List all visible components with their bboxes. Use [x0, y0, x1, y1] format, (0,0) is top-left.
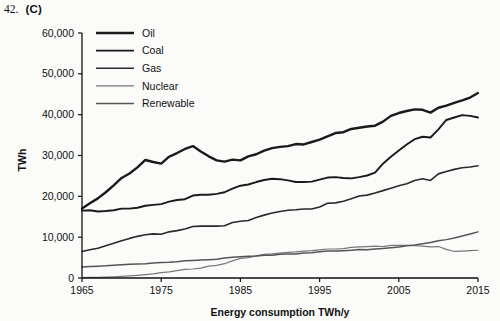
x-tick-label: 2015 [466, 284, 490, 296]
series-line-nuclear [82, 245, 478, 277]
legend-label-nuclear: Nuclear [142, 80, 179, 92]
figure-root: 42. (C) 010,00020,00030,00040,00050,0006… [0, 0, 500, 321]
legend-label-oil: Oil [142, 27, 155, 39]
y-tick-label: 30,000 [42, 149, 74, 161]
y-axis-title: TWh [16, 149, 28, 172]
x-tick-label: 2005 [387, 284, 411, 296]
y-tick-label: 10,000 [42, 231, 74, 243]
x-tick-label: 1975 [150, 284, 174, 296]
x-tick-label: 1965 [70, 284, 94, 296]
series-line-renewable [82, 232, 478, 267]
y-tick-label: 50,000 [42, 67, 74, 79]
y-tick-label: 40,000 [42, 108, 74, 120]
x-axis-title: Energy consumption TWh/y [211, 306, 350, 318]
chart-legend: OilCoalGasNuclearRenewable [96, 27, 195, 109]
y-tick-label: 0 [68, 272, 74, 284]
legend-label-renewable: Renewable [142, 97, 195, 109]
legend-label-coal: Coal [142, 44, 164, 56]
y-tick-label: 20,000 [42, 190, 74, 202]
y-tick-label: 60,000 [42, 27, 74, 39]
legend-label-gas: Gas [142, 62, 161, 74]
x-tick-label: 1985 [229, 284, 253, 296]
line-chart: 010,00020,00030,00040,00050,00060,000196… [0, 0, 500, 321]
series-line-oil [82, 93, 478, 209]
x-tick-label: 1995 [308, 284, 332, 296]
series-layer [82, 93, 478, 278]
